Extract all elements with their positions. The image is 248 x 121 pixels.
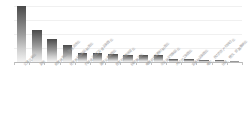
x-axis-labels: 交通运输业其他房屋建筑业、装修装饰业化学原料及制品制造业农副食品加工及食品制造业… <box>14 64 242 120</box>
bar-chart: 交通运输业其他房屋建筑业、装修装饰业化学原料及制品制造业农副食品加工及食品制造业… <box>0 0 248 121</box>
bar <box>17 6 26 62</box>
bar <box>47 39 56 62</box>
bar-slot <box>14 6 29 62</box>
axis-tick <box>242 62 243 65</box>
bar-slot <box>44 6 59 62</box>
